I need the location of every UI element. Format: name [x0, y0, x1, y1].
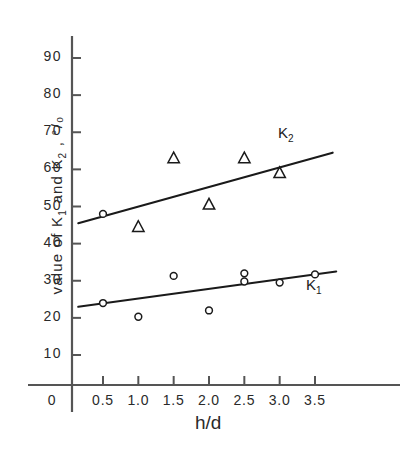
y-axis-tick-label: 20 — [28, 308, 62, 324]
y-axis-tick-label: 50 — [28, 197, 62, 213]
data-point-circle-k2 — [100, 211, 107, 218]
series-label-k1: K1 — [306, 276, 322, 296]
series-label-subscript: 2 — [288, 133, 294, 144]
data-point-circle-k1 — [135, 313, 142, 320]
data-point-triangle-k2 — [168, 152, 179, 163]
data-point-triangle-k2 — [239, 152, 250, 163]
x-axis-tick-label: 0 — [32, 392, 72, 408]
data-point-circle-k1 — [276, 279, 283, 286]
trend-line-k2 — [78, 153, 332, 224]
data-point-circle-k1 — [241, 278, 248, 285]
y-axis-tick-label: 70 — [28, 122, 62, 138]
trend-line-k1 — [78, 271, 336, 306]
y-axis-tick-label: 90 — [28, 48, 62, 64]
data-point-circle-k1 — [100, 300, 107, 307]
x-axis-tick-label: 2.0 — [189, 392, 229, 408]
y-axis-tick-label: 10 — [28, 345, 62, 361]
x-axis-tick-label: 2.5 — [224, 392, 264, 408]
plot-canvas — [0, 0, 416, 459]
y-axis-tick-label: 30 — [28, 271, 62, 287]
y-axis-tick-label: 80 — [28, 85, 62, 101]
x-axis-tick-label: 3.0 — [260, 392, 300, 408]
chart-figure: value of K1 and K2 , °/₀ h/d 10203040506… — [0, 0, 416, 459]
x-axis-tick-label: 1.5 — [154, 392, 194, 408]
series-label-base: K — [306, 276, 316, 293]
series-label-base: K — [278, 124, 288, 141]
x-axis-tick-label: 0.5 — [83, 392, 123, 408]
data-point-triangle-k2 — [133, 221, 144, 232]
y-axis-tick-label: 40 — [28, 234, 62, 250]
data-point-circle-k1 — [170, 273, 177, 280]
x-axis-tick-label: 3.5 — [295, 392, 335, 408]
series-label-subscript: 1 — [316, 285, 322, 296]
x-axis-tick-label: 1.0 — [118, 392, 158, 408]
data-point-triangle-k2 — [203, 198, 214, 209]
data-point-circle-k1 — [206, 307, 213, 314]
data-point-circle-k1 — [241, 270, 248, 277]
y-axis-tick-label: 60 — [28, 159, 62, 175]
series-label-k2: K2 — [278, 124, 294, 144]
